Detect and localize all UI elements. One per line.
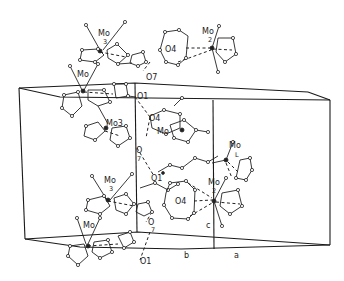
label-o1-mid: O1 (151, 174, 162, 183)
svg-text:3: 3 (103, 38, 107, 46)
label-o1-bottom: O1 (140, 257, 151, 266)
label-mo3-mid: Mo3 (106, 119, 123, 128)
atom-labels: Mo 3 Mo 2 O4 Mo O7 O1 Mo3 O4 Mo O 7 O1 M… (77, 27, 241, 266)
svg-text:L: L (235, 151, 239, 159)
label-mo-right-l: Mo (229, 141, 241, 150)
molecule-upper-left (60, 62, 136, 147)
label-axis-a: a (234, 251, 239, 260)
svg-text:3: 3 (109, 185, 113, 193)
diagram-svg: Mo 3 Mo 2 O4 Mo O7 O1 Mo3 O4 Mo O 7 O1 M… (0, 0, 344, 281)
label-o7-mid: O (136, 146, 142, 155)
label-mo-upper-left: Mo (77, 70, 89, 79)
svg-text:7: 7 (151, 226, 155, 234)
label-o4-top: O4 (165, 45, 176, 54)
label-mo-low-left: Mo (104, 176, 116, 185)
crystal-packing-figure: Mo 3 Mo 2 O4 Mo O7 O1 Mo3 O4 Mo O 7 O1 M… (0, 0, 344, 281)
svg-text:7: 7 (137, 155, 141, 163)
label-mo-right-2: Mo (208, 178, 220, 187)
molecule-center (135, 96, 210, 176)
label-o1-top: O1 (137, 92, 148, 101)
svg-text:2: 2 (212, 187, 216, 195)
svg-text:2: 2 (208, 36, 212, 44)
label-mo-top-left: Mo (98, 29, 110, 38)
label-mo-top-right: Mo (202, 27, 214, 36)
label-mo-mid: Mo (157, 127, 169, 136)
label-axis-c: c (206, 221, 210, 230)
label-o4-low: O4 (175, 197, 186, 206)
label-o4-mid: O4 (149, 114, 160, 123)
molecule-top-left (78, 20, 150, 71)
label-mo-bottom-left: Mo (83, 221, 95, 230)
label-axis-b: b (184, 251, 189, 260)
label-o7-top: O7 (146, 73, 157, 82)
